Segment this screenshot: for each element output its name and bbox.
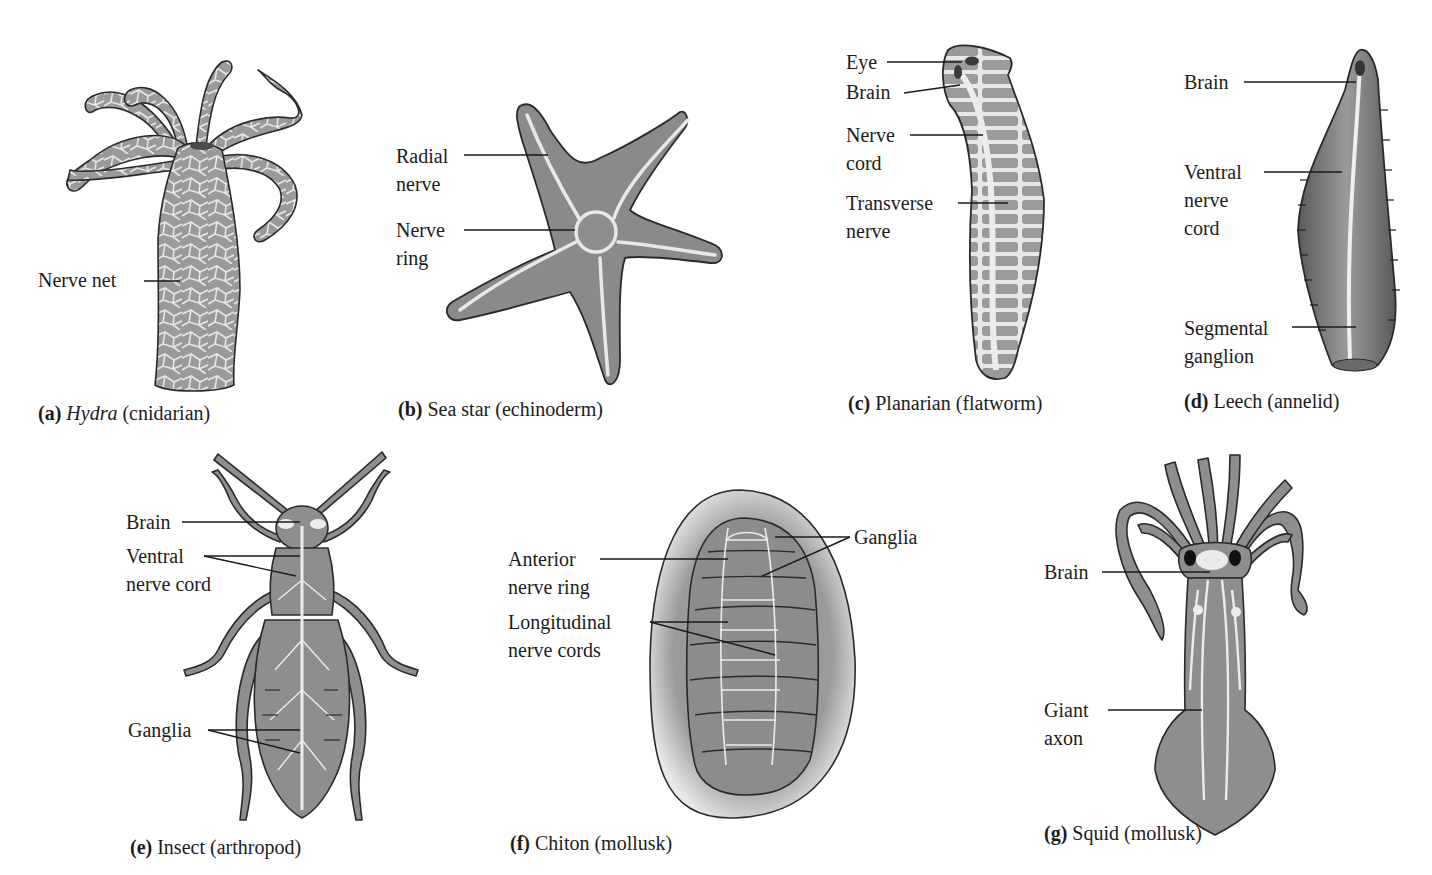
label-giant-axon: Giant axon [1044,696,1088,752]
label-brain: Brain [126,508,170,536]
label-brain: Brain [1044,558,1088,586]
caption-squid: (g) Squid (mollusk) [1044,822,1202,845]
caption-group: (cnidarian) [122,402,210,424]
label-ganglia: Ganglia [854,523,917,551]
label-brain: Brain [846,78,890,106]
panel-squid: Brain Giant axon (g) Squid (mollusk) [1030,450,1350,860]
label-nerve-net: Nerve net [38,266,116,294]
label-radial-nerve: Radial nerve [396,142,448,198]
caption-hydra: (a) Hydra (cnidarian) [38,402,210,425]
caption-leech: (d) Leech (annelid) [1184,390,1340,413]
panel-chiton: Anterior nerve ring Longitudinal nerve c… [490,480,950,870]
label-nerve-ring: Nerve ring [396,216,445,272]
label-ventral-nerve-cord: Ventral nerve cord [126,542,211,598]
panel-leech: Brain Ventral nerve cord Segmental gangl… [1150,30,1432,430]
label-anterior-nerve-ring: Anterior nerve ring [508,545,590,601]
label-ventral-nerve-cord: Ventral nerve cord [1184,158,1242,242]
label-ganglia: Ganglia [128,716,191,744]
hydra-illustration [0,0,380,430]
caption-chiton: (f) Chiton (mollusk) [510,832,672,855]
label-longitudinal-nerve-cords: Longitudinal nerve cords [508,608,611,664]
label-nerve-cord: Nerve cord [846,121,895,177]
panel-planarian: Eye Brain Nerve cord Transverse nerve (c… [820,30,1120,430]
caption-insect: (e) Insect (arthropod) [130,836,301,859]
panel-hydra: Nerve net (a) Hydra (cnidarian) [0,0,380,430]
caption-name: Hydra [66,402,117,424]
label-segmental-ganglion: Segmental ganglion [1184,314,1268,370]
caption-letter: (a) [38,402,61,424]
label-transverse-nerve: Transverse nerve [846,189,933,245]
label-brain: Brain [1184,68,1228,96]
insect-illustration [100,440,450,870]
squid-illustration [1030,450,1350,860]
panel-sea-star: Radial nerve Nerve ring (b) Sea star (ec… [380,80,800,430]
panel-insect: Brain Ventral nerve cord Ganglia (e) Ins… [100,440,450,870]
label-eye: Eye [846,48,877,76]
caption-sea-star: (b) Sea star (echinoderm) [398,398,603,421]
caption-planarian: (c) Planarian (flatworm) [848,392,1042,415]
